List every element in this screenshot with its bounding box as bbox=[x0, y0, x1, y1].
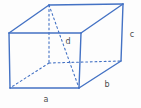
back-right-vertical-edge-c bbox=[121, 4, 123, 61]
front-right-vertical-edge bbox=[79, 33, 81, 88]
top-left-edge bbox=[9, 5, 49, 33]
edge-label-a: a bbox=[44, 96, 49, 104]
cuboid-figure: a b c d bbox=[0, 0, 141, 108]
front-left-vertical-edge bbox=[9, 33, 10, 88]
bottom-left-edge-hidden bbox=[10, 63, 49, 88]
top-back-edge bbox=[49, 4, 123, 5]
bottom-right-edge-b bbox=[79, 61, 121, 88]
top-right-edge bbox=[81, 4, 123, 33]
edge-label-b: b bbox=[104, 81, 109, 89]
edge-label-d: d bbox=[65, 38, 70, 46]
cuboid-wireframe-svg bbox=[0, 0, 141, 108]
bottom-back-edge-hidden bbox=[49, 61, 121, 63]
space-diagonal-d bbox=[49, 5, 79, 88]
edge-label-c: c bbox=[130, 31, 134, 39]
